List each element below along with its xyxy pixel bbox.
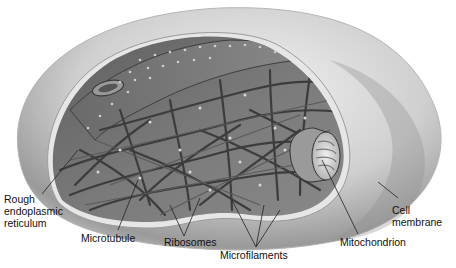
label-ribosomes: Ribosomes [164,236,217,248]
label-mitochondrion: Mitochondrion [340,236,406,248]
label-microtubule: Microtubule [81,232,135,244]
cell-diagram [0,0,456,268]
mitochondrion-shape [290,128,340,182]
label-cell-membrane: Cell membrane [392,204,442,228]
label-rough-er: Rough endoplasmic reticulum [4,193,63,229]
label-microfilaments: Microfilaments [220,249,288,261]
